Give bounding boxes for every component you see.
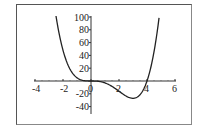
x-tick-label: -4: [32, 83, 40, 94]
axes: [34, 16, 176, 114]
y-tick-label: -20: [76, 88, 89, 99]
function-plot: -4-20246-40-2020406080100: [0, 0, 200, 128]
y-tick-label: -40: [76, 101, 89, 112]
y-tick-label: 80: [79, 24, 89, 35]
ticks: [35, 17, 175, 107]
tick-labels: -4-20246-40-2020406080100: [32, 12, 177, 113]
y-tick-label: 40: [79, 50, 89, 61]
x-tick-label: -2: [60, 83, 68, 94]
y-tick-label: 20: [79, 63, 89, 74]
x-tick-label: 4: [144, 83, 149, 94]
y-tick-label: 100: [74, 12, 89, 23]
y-tick-label: 60: [79, 37, 89, 48]
x-tick-label: 6: [172, 83, 177, 94]
